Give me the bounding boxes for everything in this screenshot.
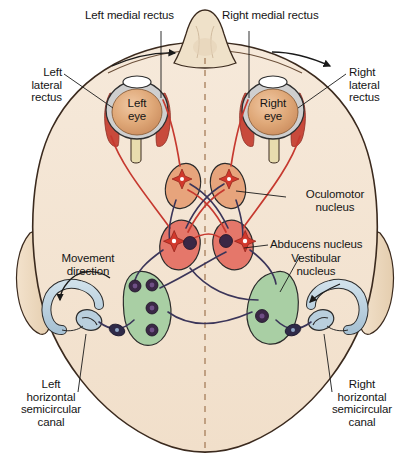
left-abducens-interneuron xyxy=(184,237,197,250)
label-left-semicircular-canal: Left horizontal semicircular canal xyxy=(8,378,94,428)
label-movement-direction: Movement direction xyxy=(46,252,130,277)
label-right-lateral-rectus: Right lateral rectus xyxy=(349,66,410,104)
label-oculomotor-nucleus: Oculomotor nucleus xyxy=(289,188,381,213)
right-eye-lens xyxy=(259,76,287,88)
label-right-semicircular-canal: Right horizontal semicircular canal xyxy=(318,378,406,428)
label-abducens-nucleus: Abducens nucleus xyxy=(270,238,362,251)
label-left-lateral-rectus: Left lateral rectus xyxy=(0,66,62,104)
label-vestibular-nucleus: Vestibular nucleus xyxy=(273,252,359,277)
left-optic-nerve xyxy=(131,136,141,163)
right-abducens-interneuron xyxy=(220,235,233,248)
right-optic-nerve xyxy=(269,136,279,163)
label-right-eye: Right eye xyxy=(249,97,297,122)
nose-tip-shading xyxy=(193,38,217,56)
label-left-medial-rectus: Left medial rectus xyxy=(85,9,174,22)
label-left-eye: Left eye xyxy=(113,97,161,122)
label-right-medial-rectus: Right medial rectus xyxy=(222,9,319,22)
right-vestibular-neurons xyxy=(256,310,269,323)
left-eye-lens xyxy=(123,76,151,88)
